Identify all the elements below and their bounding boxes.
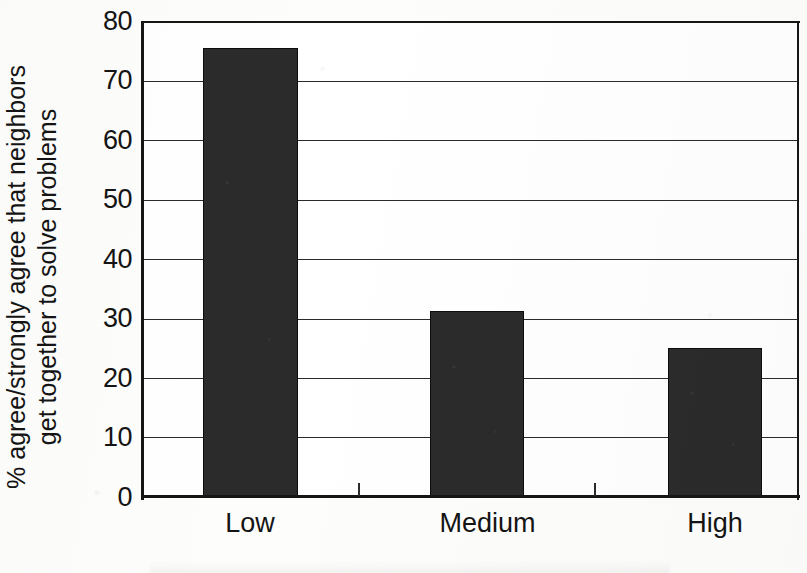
y-tick-label-70: 70 (60, 67, 132, 94)
x-tick-label-high: High (650, 508, 780, 538)
bar-chart-figure: 80 70 60 50 40 30 20 10 0 Low Medium Hig… (0, 0, 807, 573)
y-tick-0: 0 (60, 484, 132, 511)
y-tick-label-50: 50 (60, 186, 132, 213)
y-tick-label-30: 30 (60, 305, 132, 332)
y-tick-10: 10 (60, 424, 132, 451)
x-tick-label-low: Low (185, 508, 315, 538)
y-tick-30: 30 (60, 305, 132, 332)
x-tick-mark-1 (358, 483, 360, 496)
y-axis-line (141, 21, 144, 500)
plot-top-border (141, 21, 800, 23)
y-axis-title-line-1: % agree/strongly agree that neighbors (2, 65, 31, 489)
y-tick-label-20: 20 (60, 365, 132, 392)
x-axis-title-cropped (141, 560, 799, 573)
y-tick-label-10: 10 (60, 424, 132, 451)
y-tick-20: 20 (60, 365, 132, 392)
y-tick-label-40: 40 (60, 246, 132, 273)
y-tick-label-0: 0 (60, 484, 132, 511)
y-axis-title: % agree/strongly agree that neighbors ge… (0, 17, 64, 537)
x-tick-mark-2 (594, 483, 596, 496)
y-tick-80: 80 (60, 8, 132, 35)
y-tick-70: 70 (60, 67, 132, 94)
y-tick-label-60: 60 (60, 127, 132, 154)
y-tick-40: 40 (60, 246, 132, 273)
plot-right-border (797, 21, 799, 500)
x-axis-line (141, 495, 800, 498)
y-tick-50: 50 (60, 186, 132, 213)
bar-low (203, 48, 298, 497)
y-axis-title-line-2: get together to solve problems (33, 109, 62, 445)
y-tick-60: 60 (60, 127, 132, 154)
y-tick-label-80: 80 (60, 8, 132, 35)
x-tick-label-medium: Medium (415, 508, 560, 538)
bar-high (668, 348, 762, 497)
bar-medium (430, 311, 524, 497)
